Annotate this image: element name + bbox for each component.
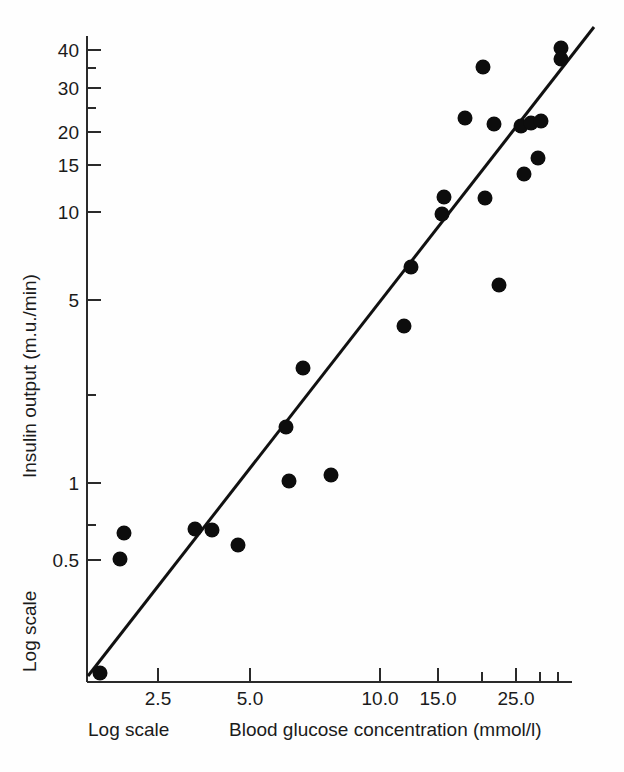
y-axis-minor-ticks <box>87 68 96 525</box>
data-point <box>492 278 507 293</box>
data-point <box>296 361 311 376</box>
data-point <box>93 666 108 681</box>
data-point <box>435 207 450 222</box>
y-axis-tick-labels: 4030201510510.5 <box>53 40 79 571</box>
data-point <box>117 526 132 541</box>
x-axis-minor-ticks <box>482 672 558 682</box>
x-tick-label: 10.0 <box>362 688 399 709</box>
x-axis-log-scale-note: Log scale <box>88 719 169 740</box>
data-point <box>188 522 203 537</box>
data-point <box>437 190 452 205</box>
y-axis-ticks <box>87 50 101 560</box>
data-point <box>113 552 128 567</box>
y-tick-label: 40 <box>58 40 79 61</box>
data-point <box>279 420 294 435</box>
data-point <box>205 523 220 538</box>
data-point <box>487 117 502 132</box>
x-axis-tick-labels: 2.55.010.015.025.0 <box>145 688 535 709</box>
data-point <box>397 319 412 334</box>
x-axis-title: Blood glucose concentration (mmol/l) <box>229 719 542 740</box>
data-point-group <box>93 41 569 681</box>
y-tick-label: 15 <box>58 155 79 176</box>
figure-container: 4030201510510.5 2.55.010.015.025.0 Insul… <box>0 0 624 772</box>
data-point <box>404 260 419 275</box>
x-tick-label: 2.5 <box>145 688 171 709</box>
data-point <box>478 191 493 206</box>
data-point <box>534 114 549 129</box>
y-tick-label: 1 <box>68 473 79 494</box>
y-tick-label: 5 <box>68 290 79 311</box>
y-tick-label: 10 <box>58 202 79 223</box>
data-point <box>458 111 473 126</box>
y-axis-log-scale-note: Log scale <box>19 591 40 672</box>
data-point <box>554 52 569 67</box>
y-tick-label: 30 <box>58 78 79 99</box>
x-tick-label: 25.0 <box>498 688 535 709</box>
x-axis-ticks <box>158 668 516 682</box>
data-point <box>531 151 546 166</box>
data-point <box>476 60 491 75</box>
data-point <box>517 167 532 182</box>
data-point <box>231 538 246 553</box>
x-tick-label: 5.0 <box>237 688 263 709</box>
y-axis-title: Insulin output (m.u./min) <box>19 274 40 478</box>
y-tick-label: 20 <box>58 122 79 143</box>
x-tick-label: 15.0 <box>420 688 457 709</box>
data-point <box>282 474 297 489</box>
data-point <box>324 468 339 483</box>
scatter-plot: 4030201510510.5 2.55.010.015.025.0 Insul… <box>0 0 624 772</box>
y-tick-label: 0.5 <box>53 550 79 571</box>
